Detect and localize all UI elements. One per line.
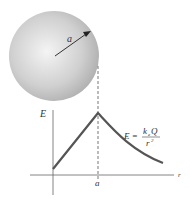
diagram-svg: a E r a E = k e Q r 2 — [0, 0, 190, 204]
formula-numerator-q: Q — [151, 126, 158, 136]
radius-label: a — [67, 33, 72, 44]
x-axis-label: r — [178, 171, 181, 179]
formula-denominator: r — [146, 138, 150, 148]
charged-sphere — [9, 11, 99, 101]
formula-denominator-exp: 2 — [151, 138, 154, 143]
y-axis-label: E — [39, 108, 46, 119]
diagram-canvas: a E r a E = k e Q r 2 — [0, 0, 190, 204]
formula-lhs: E = — [123, 131, 138, 141]
x-tick-label-a: a — [95, 178, 100, 188]
